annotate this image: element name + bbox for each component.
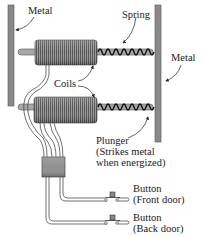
label-spring: Spring xyxy=(122,10,150,20)
label-metal-right: Metal xyxy=(171,53,196,63)
label-button-front-2: (Front door) xyxy=(133,195,185,205)
solenoid-bottom xyxy=(18,97,154,123)
metal-plate-right xyxy=(155,5,161,142)
label-button-back-1: Button xyxy=(133,213,162,223)
button-back-door xyxy=(105,215,129,224)
label-metal-left: Metal xyxy=(28,6,53,16)
label-button-front-1: Button xyxy=(133,184,162,194)
label-plunger-3: when energized) xyxy=(96,158,165,168)
metal-plate-left xyxy=(8,5,14,106)
label-plunger-2: (Strikes metal xyxy=(96,147,155,157)
label-plunger-1: Plunger xyxy=(96,136,129,146)
solenoid-top xyxy=(18,40,154,65)
button-front-door xyxy=(105,192,129,201)
label-coils: Coils xyxy=(54,79,76,89)
label-button-back-2: (Back door) xyxy=(133,224,183,234)
